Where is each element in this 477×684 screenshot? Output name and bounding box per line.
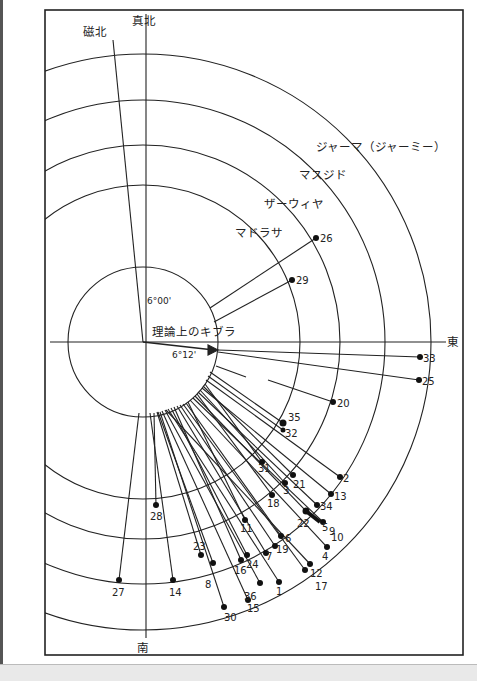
- svg-text:21: 21: [293, 479, 306, 490]
- qibla-arrow: [143, 342, 214, 350]
- svg-text:28: 28: [150, 511, 163, 522]
- svg-text:2: 2: [343, 473, 349, 484]
- svg-text:22: 22: [297, 518, 310, 529]
- svg-text:14: 14: [169, 587, 182, 598]
- svg-text:18: 18: [267, 498, 280, 509]
- true-north-label: 真北: [132, 14, 156, 28]
- svg-text:17: 17: [315, 581, 328, 592]
- svg-text:30: 30: [224, 612, 237, 623]
- svg-text:29: 29: [296, 275, 309, 286]
- ring-label-madrasa: マドラサ: [235, 226, 283, 240]
- svg-text:4: 4: [322, 551, 328, 562]
- ring-label-masjid: マスジド: [299, 168, 347, 182]
- svg-text:1: 1: [276, 586, 282, 597]
- svg-text:20: 20: [337, 398, 350, 409]
- scan-bottom-edge: [0, 664, 477, 681]
- south-label: 南: [137, 641, 149, 655]
- svg-text:5: 5: [322, 522, 328, 533]
- svg-text:33: 33: [423, 353, 436, 364]
- svg-text:32: 32: [285, 428, 298, 439]
- svg-text:27: 27: [112, 587, 125, 598]
- ring-label-zawiya: ザーウィヤ: [264, 197, 324, 211]
- svg-text:34: 34: [320, 501, 333, 512]
- declination-angle: 6°00': [147, 296, 171, 306]
- svg-text:3: 3: [283, 485, 289, 496]
- svg-text:19: 19: [276, 544, 289, 555]
- svg-text:31: 31: [258, 463, 271, 474]
- svg-text:11: 11: [240, 523, 253, 534]
- svg-text:35: 35: [288, 412, 301, 423]
- svg-text:6: 6: [285, 533, 291, 544]
- svg-text:13: 13: [334, 491, 347, 502]
- magnetic-north-line: [113, 40, 143, 342]
- svg-text:23: 23: [193, 541, 206, 552]
- svg-text:12: 12: [310, 568, 323, 579]
- svg-text:16: 16: [234, 565, 247, 576]
- svg-text:25: 25: [422, 376, 435, 387]
- svg-text:8: 8: [205, 579, 211, 590]
- qibla-angle: 6°12': [172, 350, 196, 360]
- qibla-arrowhead: [208, 345, 218, 355]
- theoretical-qibla-label: 理論上のキブラ: [152, 325, 236, 339]
- svg-text:36: 36: [244, 591, 257, 602]
- magnetic-north-label: 磁北: [83, 25, 107, 39]
- svg-text:10: 10: [331, 532, 344, 543]
- svg-text:24: 24: [246, 559, 259, 570]
- svg-text:26: 26: [320, 233, 333, 244]
- svg-text:7: 7: [266, 551, 272, 562]
- east-label: 東: [447, 335, 459, 349]
- svg-text:15: 15: [247, 603, 260, 614]
- ring-label-jama: ジャーマ（ジャーミー）: [316, 140, 446, 154]
